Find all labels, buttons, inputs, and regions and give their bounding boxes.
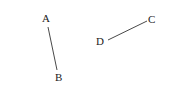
point-label-d: D — [96, 35, 104, 47]
point-label-b: B — [55, 71, 62, 83]
point-label-c: C — [148, 13, 155, 25]
segment-ab — [48, 27, 57, 70]
point-label-a: A — [42, 12, 50, 24]
segment-dc — [108, 21, 147, 40]
diagram-canvas: A B C D — [0, 0, 171, 87]
